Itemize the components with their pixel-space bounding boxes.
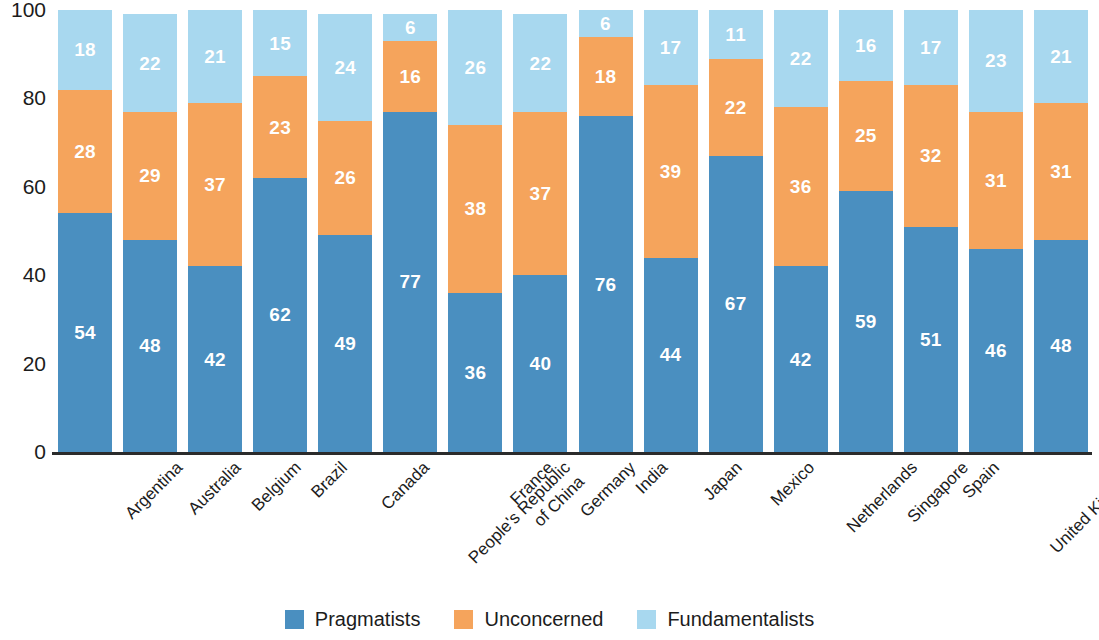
bar-segment[interactable]: 21 bbox=[188, 10, 242, 103]
bar-segment[interactable]: 76 bbox=[579, 116, 633, 452]
legend-item[interactable]: Fundamentalists bbox=[637, 608, 814, 631]
bar-group[interactable]: 423721 bbox=[188, 10, 242, 452]
y-axis-tick-label: 60 bbox=[23, 175, 46, 199]
bar-segment[interactable]: 16 bbox=[383, 41, 437, 112]
bar-value-label: 51 bbox=[920, 330, 942, 349]
bar-group[interactable]: 443917 bbox=[644, 10, 698, 452]
bar-value-label: 25 bbox=[855, 126, 877, 145]
bar-segment[interactable]: 22 bbox=[123, 14, 177, 111]
bar-value-label: 36 bbox=[465, 363, 487, 382]
bar-segment[interactable]: 49 bbox=[318, 235, 372, 452]
bar-value-label: 48 bbox=[139, 336, 161, 355]
bar-segment[interactable]: 48 bbox=[123, 240, 177, 452]
bar-group[interactable]: 482922 bbox=[123, 10, 177, 452]
legend-item[interactable]: Pragmatists bbox=[285, 608, 421, 631]
bar-value-label: 38 bbox=[465, 199, 487, 218]
bar-segment[interactable]: 24 bbox=[318, 14, 372, 120]
bar-value-label: 59 bbox=[855, 312, 877, 331]
bar-segment[interactable]: 39 bbox=[644, 85, 698, 257]
bar-value-label: 77 bbox=[399, 272, 421, 291]
bar-group[interactable]: 463123 bbox=[969, 10, 1023, 452]
bar-value-label: 16 bbox=[399, 67, 421, 86]
bar-segment[interactable]: 21 bbox=[1034, 10, 1088, 103]
bar-segment[interactable]: 36 bbox=[448, 293, 502, 452]
bar-value-label: 26 bbox=[465, 58, 487, 77]
bar-group[interactable]: 513217 bbox=[904, 10, 958, 452]
bar-segment[interactable]: 77 bbox=[383, 112, 437, 452]
bar-segment[interactable]: 18 bbox=[579, 37, 633, 117]
chart-legend: PragmatistsUnconcernedFundamentalists bbox=[0, 608, 1099, 631]
bar-segment[interactable]: 6 bbox=[383, 14, 437, 41]
bar-value-label: 16 bbox=[855, 36, 877, 55]
bar-segment[interactable]: 29 bbox=[123, 112, 177, 240]
legend-color-swatch bbox=[454, 610, 473, 629]
bar-value-label: 23 bbox=[269, 118, 291, 137]
bar-value-label: 31 bbox=[1050, 162, 1072, 181]
bar-segment[interactable]: 23 bbox=[253, 76, 307, 178]
bar-value-label: 39 bbox=[660, 162, 682, 181]
legend-color-swatch bbox=[285, 610, 304, 629]
bar-segment[interactable]: 42 bbox=[188, 266, 242, 452]
bar-segment[interactable]: 28 bbox=[58, 90, 112, 214]
bar-segment[interactable]: 48 bbox=[1034, 240, 1088, 452]
bar-segment[interactable]: 16 bbox=[839, 10, 893, 81]
bar-value-label: 6 bbox=[600, 14, 611, 33]
bar-segment[interactable]: 15 bbox=[253, 10, 307, 76]
bar-segment[interactable]: 22 bbox=[709, 59, 763, 156]
bar-segment[interactable]: 36 bbox=[774, 107, 828, 266]
bar-segment[interactable]: 22 bbox=[513, 14, 567, 111]
bar-segment[interactable]: 40 bbox=[513, 275, 567, 452]
bar-value-label: 76 bbox=[595, 275, 617, 294]
bar-segment[interactable]: 6 bbox=[579, 10, 633, 37]
bar-group[interactable]: 592516 bbox=[839, 10, 893, 452]
bar-segment[interactable]: 23 bbox=[969, 10, 1023, 112]
bar-segment[interactable]: 32 bbox=[904, 85, 958, 226]
bar-segment[interactable]: 46 bbox=[969, 249, 1023, 452]
bar-group[interactable]: 622315 bbox=[253, 10, 307, 452]
bar-segment[interactable]: 51 bbox=[904, 227, 958, 452]
bar-group[interactable]: 542818 bbox=[58, 10, 112, 452]
bar-group[interactable]: 492624 bbox=[318, 10, 372, 452]
bar-value-label: 26 bbox=[334, 168, 356, 187]
bar-segment[interactable]: 54 bbox=[58, 213, 112, 452]
bar-group[interactable]: 672211 bbox=[709, 10, 763, 452]
bar-segment[interactable]: 44 bbox=[644, 258, 698, 452]
bar-value-label: 29 bbox=[139, 166, 161, 185]
bar-segment[interactable]: 25 bbox=[839, 81, 893, 192]
bar-segment[interactable]: 26 bbox=[318, 121, 372, 236]
bar-value-label: 22 bbox=[530, 54, 552, 73]
bar-group[interactable]: 423622 bbox=[774, 10, 828, 452]
bar-value-label: 42 bbox=[204, 350, 226, 369]
bar-segment[interactable]: 42 bbox=[774, 266, 828, 452]
bar-value-label: 46 bbox=[985, 341, 1007, 360]
bar-segment[interactable]: 18 bbox=[58, 10, 112, 90]
bar-segment[interactable]: 26 bbox=[448, 10, 502, 125]
bar-segment[interactable]: 17 bbox=[644, 10, 698, 85]
y-axis-tick-label: 0 bbox=[34, 440, 46, 464]
legend-item[interactable]: Unconcerned bbox=[454, 608, 603, 631]
bar-segment[interactable]: 37 bbox=[188, 103, 242, 267]
bar-segment[interactable]: 31 bbox=[969, 112, 1023, 249]
bar-segment[interactable]: 31 bbox=[1034, 103, 1088, 240]
bar-value-label: 44 bbox=[660, 345, 682, 364]
bar-group[interactable]: 77166 bbox=[383, 10, 437, 452]
x-axis-tick-label: Argentina bbox=[121, 458, 186, 523]
bar-segment[interactable]: 38 bbox=[448, 125, 502, 293]
bar-segment[interactable]: 17 bbox=[904, 10, 958, 85]
bar-value-label: 15 bbox=[269, 34, 291, 53]
bar-group[interactable]: 76186 bbox=[579, 10, 633, 452]
bar-segment[interactable]: 11 bbox=[709, 10, 763, 59]
bar-group[interactable]: 483121 bbox=[1034, 10, 1088, 452]
bar-segment[interactable]: 22 bbox=[774, 10, 828, 107]
bar-segment[interactable]: 67 bbox=[709, 156, 763, 452]
bar-segment[interactable]: 37 bbox=[513, 112, 567, 276]
bar-segment[interactable]: 62 bbox=[253, 178, 307, 452]
x-axis-labels: ArgentinaAustraliaBelgiumBrazilCanadaPeo… bbox=[58, 458, 1088, 598]
bar-group[interactable]: 403722 bbox=[513, 10, 567, 452]
bar-value-label: 22 bbox=[790, 49, 812, 68]
x-axis-tick-label: Mexico bbox=[767, 458, 819, 510]
bar-value-label: 49 bbox=[334, 334, 356, 353]
x-axis-tick-label: Australia bbox=[185, 458, 246, 519]
bar-group[interactable]: 363826 bbox=[448, 10, 502, 452]
bar-segment[interactable]: 59 bbox=[839, 191, 893, 452]
